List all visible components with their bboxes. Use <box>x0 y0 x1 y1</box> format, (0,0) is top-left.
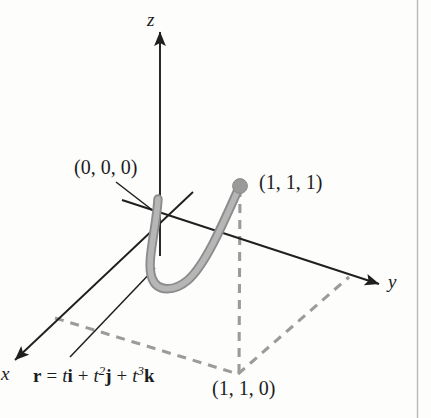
formula-term1-unit: i <box>67 365 72 386</box>
x-axis-label: x <box>1 364 9 383</box>
formula-equals: = <box>46 365 57 386</box>
twisted-cubic-curve <box>150 190 238 289</box>
vector-equation: r=ti+t2j+t3k <box>33 365 155 385</box>
curve-fill <box>150 190 238 289</box>
formula-plus2: + <box>117 365 128 386</box>
formula-r: r <box>33 365 41 386</box>
point-110-label: (1, 1, 0) <box>212 378 275 398</box>
z-axis-label: z <box>147 10 154 29</box>
x-axis <box>15 192 193 360</box>
formula-term2-unit: j <box>105 365 111 386</box>
y-axis-label: y <box>388 272 396 291</box>
dashed-projection-to-y-axis <box>238 277 349 374</box>
endpoint-dot-111 <box>233 179 248 194</box>
space-curve-figure: z y x (0, 0, 0) (1, 1, 1) (1, 1, 0) r=ti… <box>0 0 431 418</box>
dashed-vertical-111-to-110 <box>239 188 240 372</box>
origin-point-label: (0, 0, 0) <box>74 157 137 177</box>
figure-canvas <box>0 0 431 418</box>
formula-plus1: + <box>78 365 89 386</box>
formula-leader-line <box>70 268 155 357</box>
point-111-label: (1, 1, 1) <box>259 172 322 192</box>
formula-term3-unit: k <box>144 365 155 386</box>
